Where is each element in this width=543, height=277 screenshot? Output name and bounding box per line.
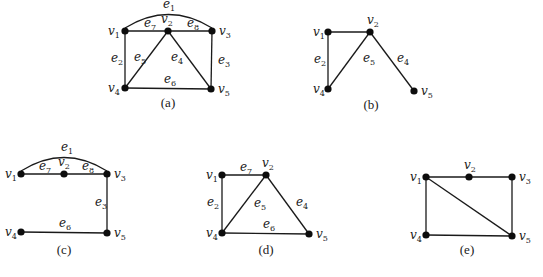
caption-b: (b) <box>363 97 378 112</box>
edge-e3 <box>211 31 212 89</box>
edge-label-e7: e7 <box>39 159 51 175</box>
graph-figure-e: v1v2v3v4v5(e) <box>410 158 531 257</box>
edge-e5 <box>125 31 168 88</box>
edge-label-e5: e5 <box>134 50 146 66</box>
vertex-label-v5: v5 <box>114 226 126 242</box>
vertex-label-v4: v4 <box>5 225 17 241</box>
vertex-v4 <box>422 231 429 238</box>
vertex-v2 <box>164 27 171 34</box>
vertex-label-v5: v5 <box>316 227 328 243</box>
edge-label-e4: e4 <box>171 50 183 66</box>
vertex-v3 <box>208 27 215 34</box>
vertex-label-v5: v5 <box>421 84 433 100</box>
edge-e6 <box>21 232 107 233</box>
vertex-label-v1: v1 <box>313 25 325 41</box>
vertex-v2 <box>366 28 373 35</box>
vertex-v5 <box>207 85 214 92</box>
graph-figure-c: e1e7e8e3e6v1v2v3v4v5(c) <box>5 140 126 257</box>
vertex-label-v4: v4 <box>313 82 325 98</box>
vertex-v5 <box>410 87 417 94</box>
vertex-label-v3: v3 <box>219 24 231 40</box>
vertex-v1 <box>422 173 429 180</box>
vertex-v1 <box>218 171 225 178</box>
vertex-v1 <box>17 170 24 177</box>
edge-label-e8: e8 <box>82 159 94 175</box>
edge-label-e8: e8 <box>187 16 199 32</box>
vertex-v5 <box>103 229 110 236</box>
vertex-v2 <box>60 170 67 177</box>
vertex-v3 <box>103 170 110 177</box>
vertex-label-v2: v2 <box>464 158 476 174</box>
vertex-label-v2: v2 <box>367 13 379 29</box>
edge-label-e2: e2 <box>111 51 123 67</box>
vertex-label-v3: v3 <box>114 167 126 183</box>
edge-e-v4-v5 <box>426 235 512 236</box>
caption-c: (c) <box>57 242 71 257</box>
edge-label-e2: e2 <box>314 52 326 68</box>
vertex-v2 <box>465 173 472 180</box>
graph-figure-a: e1e2e3e4e5e6e7e8v1v2v3v4v5(a) <box>108 0 231 110</box>
vertex-v4 <box>17 228 24 235</box>
caption-d: (d) <box>258 242 273 257</box>
edge-label-e5: e5 <box>254 196 266 212</box>
graph-diagram-canvas: e1e2e3e4e5e6e7e8v1v2v3v4v5(a)e2e5e4v1v2v… <box>0 0 543 277</box>
vertex-label-v5: v5 <box>218 82 230 98</box>
edge-label-e7: e7 <box>240 160 252 176</box>
edge-label-e1: e1 <box>61 140 73 156</box>
vertex-label-v1: v1 <box>108 24 120 40</box>
edge-label-e6: e6 <box>263 217 275 233</box>
vertex-label-v4: v4 <box>206 226 218 242</box>
vertex-v4 <box>121 84 128 91</box>
vertex-label-v1: v1 <box>5 167 17 183</box>
vertex-label-v4: v4 <box>410 228 422 244</box>
vertex-v5 <box>508 232 515 239</box>
edge-e6 <box>125 88 211 89</box>
edge-label-e5: e5 <box>363 51 375 67</box>
vertex-label-v3: v3 <box>519 170 531 186</box>
vertex-label-v5: v5 <box>519 229 531 245</box>
caption-a: (a) <box>161 95 175 110</box>
vertex-v4 <box>324 85 331 92</box>
vertex-label-v1: v1 <box>410 170 422 186</box>
caption-e: (e) <box>460 242 474 257</box>
vertex-v4 <box>218 229 225 236</box>
vertex-v5 <box>305 230 312 237</box>
edge-label-e4: e4 <box>296 195 308 211</box>
graph-figure-b: e2e5e4v1v2v4v5(b) <box>313 13 433 112</box>
vertex-v1 <box>121 27 128 34</box>
vertex-label-v2: v2 <box>262 156 274 172</box>
edge-label-e4: e4 <box>397 51 409 67</box>
edge-label-e7: e7 <box>144 16 156 32</box>
vertex-label-v4: v4 <box>108 81 120 97</box>
edge-label-e2: e2 <box>207 195 219 211</box>
edge-label-e6: e6 <box>164 72 176 88</box>
edge-e-v1-v5 <box>426 177 512 236</box>
graph-figure-d: e7e2e5e4e6v1v2v4v5(d) <box>206 156 328 257</box>
edge-e6 <box>222 233 309 234</box>
vertex-v3 <box>508 173 515 180</box>
edge-label-e3: e3 <box>95 195 107 211</box>
edge-label-e3: e3 <box>218 53 230 69</box>
vertex-v2 <box>262 171 269 178</box>
vertex-label-v1: v1 <box>206 168 218 184</box>
vertex-v1 <box>324 28 331 35</box>
edge-label-e6: e6 <box>59 216 71 232</box>
